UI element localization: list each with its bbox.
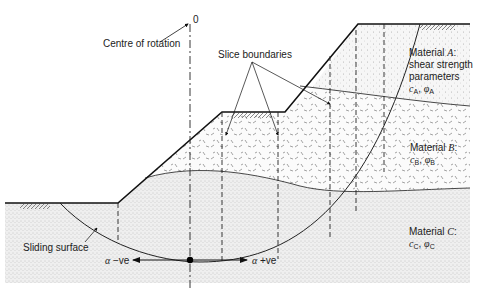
slice-boundaries-label: Slice boundaries bbox=[218, 49, 292, 61]
ground-hatch-middle bbox=[232, 113, 272, 118]
ground-hatch-left bbox=[20, 204, 50, 209]
alpha-negative-label: α −ve bbox=[105, 255, 129, 267]
alpha-positive-label: α +ve bbox=[252, 255, 276, 267]
ground-hatch-right bbox=[420, 25, 455, 30]
centre-of-rotation-label: Centre of rotation bbox=[103, 38, 180, 50]
origin-label: 0 bbox=[193, 14, 199, 26]
material-a-label: Material A: shear strength parameters cA… bbox=[409, 47, 473, 98]
sliding-surface-label: Sliding surface bbox=[23, 242, 89, 254]
material-c-label: Material C: cC, φC bbox=[409, 226, 457, 253]
slice-base-point bbox=[187, 257, 193, 263]
material-b-label: Material B: cB, φB bbox=[410, 142, 457, 169]
